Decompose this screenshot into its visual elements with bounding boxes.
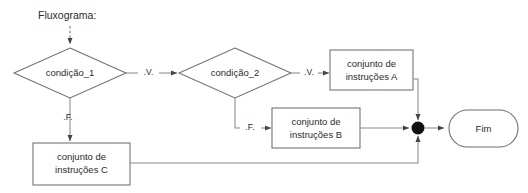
edge-label-decision1-false: .F. [63, 112, 73, 122]
merge-junction-dot [412, 122, 425, 135]
edge-label-decision2-true: .V. [304, 67, 314, 77]
decision-2-label: condição_2 [211, 67, 260, 78]
process-node-instrucoes-b[interactable] [272, 108, 360, 148]
connector-processA-to-junction [413, 79, 418, 120]
flowchart-svg: Fluxograma: condição_1 .V. condição_2 .V… [0, 0, 528, 193]
process-node-instrucoes-a[interactable] [330, 50, 413, 90]
process-b-label-line1: conjunto de [291, 116, 340, 127]
process-c-label-line1: conjunto de [57, 151, 106, 162]
process-b-label-line2: instruções B [290, 129, 342, 140]
process-a-label-line2: instruções A [346, 71, 398, 82]
edge-label-decision2-false: .F. [245, 122, 255, 132]
process-c-label-line2: instruções C [55, 164, 108, 175]
edge-label-decision1-true: .V. [143, 67, 153, 77]
terminator-fim-label: Fim [476, 123, 492, 134]
connector-decision2-false-elbow [235, 98, 240, 128]
process-a-label-line1: conjunto de [347, 58, 396, 69]
diagram-caption: Fluxograma: [38, 9, 96, 21]
decision-1-label: condição_1 [46, 67, 95, 78]
flowchart-canvas: Fluxograma: condição_1 .V. condição_2 .V… [0, 0, 528, 193]
